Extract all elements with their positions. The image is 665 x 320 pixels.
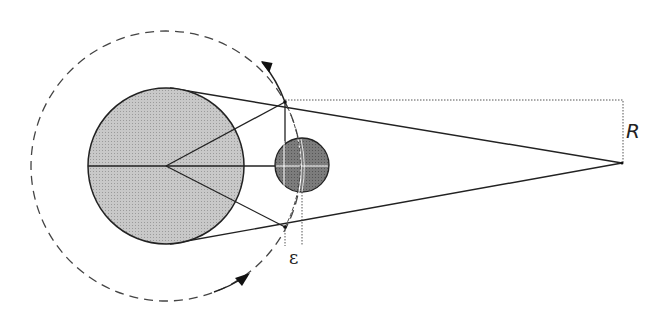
tangent-point-top [283, 100, 287, 104]
radius-label: R [626, 119, 640, 143]
radius-guide [285, 100, 623, 163]
orbit-arrow-top [262, 62, 285, 102]
epsilon-label: ε [289, 247, 298, 268]
small-body [275, 138, 329, 192]
arrow-head-bottom-icon [235, 273, 250, 286]
diagram-canvas: R ε [0, 0, 665, 320]
diagram-svg [0, 0, 665, 320]
apex-point [621, 162, 624, 165]
tangent-point-bottom [283, 225, 287, 229]
